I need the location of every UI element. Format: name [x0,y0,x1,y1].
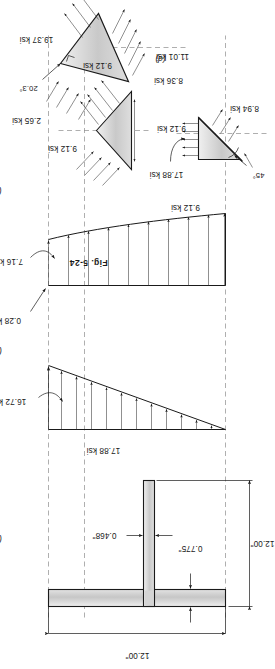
label-shear-callout: 7.16 ksi [0,257,23,266]
subfigure-c-shear-stress [30,213,225,311]
label-wedge-top-stress: 17.88 ksi [149,170,183,179]
label-e-angle: 20.3° [19,84,37,93]
label-e-upper-right: 19.37 ksi [19,35,53,44]
label-d-right: 9.12 ksi [82,61,111,70]
figure-plate: 12.00" 12.00" 0.775" 0.468" (a) 17.88 ks… [0,0,275,669]
label-d-top-left: 9.12 ksi [47,144,76,153]
figure-caption: Fig. 5-24 [69,257,107,267]
label-e-upper-left: 2.65 ksi [11,116,40,125]
label-shear-left: 0.28 ksi [0,316,21,325]
subfigure-d-element [58,80,150,185]
sublabel-a: (a) [0,534,1,544]
label-flange-thickness: 0.468" [92,531,116,540]
label-wedge-face-stress: 8.94 ksi [229,104,258,113]
figure-linework [0,0,275,669]
sublabel-c: (c) [0,186,1,196]
wedge-element [170,109,268,167]
label-width-12in: 12.00" [250,539,274,548]
label-e-lower-a: 8.36 ksi [153,76,182,85]
sublabel-b: (b) [0,346,1,356]
label-web-thickness: 0.775" [178,544,202,553]
label-depth-12in: 12.00" [125,651,149,660]
label-e-lower-b: 11.01 ksi [155,52,188,61]
label-bending-max: 17.88 ksi [86,446,120,455]
subfigure-b-bending-stress [38,365,225,429]
label-bending-callout: 16.72 ksi [0,397,26,406]
label-wedge-angle: 45° [252,171,264,180]
label-shear-right: 9.12 ksi [170,203,199,212]
subfigure-a-cross-section [48,480,252,633]
label-d-bottom: 9.12 ksi [156,124,185,133]
